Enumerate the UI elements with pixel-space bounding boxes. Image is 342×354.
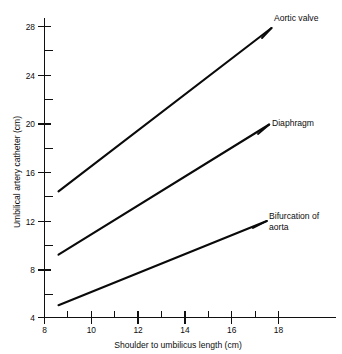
x-axis-title: Shoulder to umbilicus length (cm) — [114, 340, 242, 350]
x-axis-tick-labels: 8 10 12 14 16 18 — [42, 325, 283, 335]
chart-container: 28 24 20 16 12 8 4 8 10 — [0, 0, 342, 354]
x-tick-label: 8 — [42, 325, 47, 335]
x-tick-label: 10 — [87, 325, 97, 335]
series-label-diaphragm: Diaphragm — [272, 118, 314, 128]
y-axis-tick-labels: 28 24 20 16 12 8 4 — [26, 22, 36, 323]
y-tick-label: 4 — [30, 313, 35, 323]
x-tick-label: 14 — [180, 325, 190, 335]
x-tick-label: 16 — [227, 325, 237, 335]
y-tick-label: 24 — [26, 71, 36, 81]
series-label-bifurcation-of-aorta-line1: Bifurcation of — [269, 211, 320, 221]
y-tick-label: 20 — [26, 119, 36, 129]
series-line-diaphragm — [59, 125, 270, 255]
y-tick-label: 16 — [26, 168, 36, 178]
umbilical-catheter-line-chart: 28 24 20 16 12 8 4 8 10 — [0, 0, 342, 354]
leader-line-bifurcation-of-aorta — [253, 221, 267, 228]
y-axis-title: Umbilical artery catheter (cm) — [12, 116, 22, 228]
x-axis-minor-ticks — [68, 311, 255, 318]
y-tick-label: 8 — [30, 265, 35, 275]
y-tick-label: 28 — [26, 22, 36, 32]
series-label-aortic-valve: Aortic valve — [274, 13, 319, 23]
series-line-aortic-valve — [59, 28, 272, 191]
series-line-bifurcation-of-aorta — [59, 221, 267, 305]
series-label-bifurcation-of-aorta-line2: aorta — [269, 222, 289, 232]
y-tick-label: 12 — [26, 217, 36, 227]
x-tick-label: 18 — [274, 325, 284, 335]
x-tick-label: 12 — [133, 325, 143, 335]
